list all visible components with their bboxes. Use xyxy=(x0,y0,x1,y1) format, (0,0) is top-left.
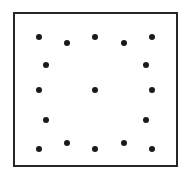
dot-r1c3 xyxy=(92,34,98,40)
dot-r5c4 xyxy=(121,140,127,146)
dot-r1c4 xyxy=(121,40,127,46)
dot-r2c2 xyxy=(143,62,149,68)
dot-r1c5 xyxy=(149,34,155,40)
dot-r5c2 xyxy=(64,140,70,146)
dot-r3c2 xyxy=(92,87,98,93)
dot-r1c1 xyxy=(36,34,42,40)
dot-r3c1 xyxy=(36,87,42,93)
dot-r5c3 xyxy=(92,146,98,152)
dot-r3c3 xyxy=(149,87,155,93)
dot-r4c2 xyxy=(143,117,149,123)
dot-r4c1 xyxy=(43,117,49,123)
dot-r1c2 xyxy=(64,40,70,46)
dot-r2c1 xyxy=(43,62,49,68)
dot-r5c1 xyxy=(36,146,42,152)
dot-r5c5 xyxy=(149,146,155,152)
figure-canvas xyxy=(0,0,191,179)
